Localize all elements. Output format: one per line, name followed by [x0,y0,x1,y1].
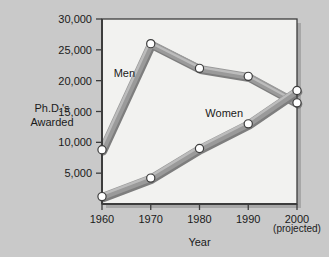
x-tick-label-1960: 1960 [90,213,114,225]
x-tick-label-1980: 1980 [187,213,211,225]
y-tick-label-5000: 5,000 [64,167,92,179]
phd-awarded-line-chart: 5,00010,00015,00020,00025,00030,00019601… [0,0,329,257]
data-point-men-1970 [147,40,155,48]
data-point-men-1990 [244,72,252,80]
y-axis-title-line1: Ph.D.'s [34,102,70,114]
series-annotation-men: Men [114,67,135,79]
y-tick-label-25000: 25,000 [58,44,92,56]
x-axis-title: Year [188,236,211,248]
y-axis-title-line2: Awarded [30,116,73,128]
data-point-women-2000 [293,86,301,94]
projected-note-label: (projected) [273,223,321,234]
data-point-men-1980 [195,64,203,72]
data-point-women-1980 [195,144,203,152]
data-point-women-1990 [244,120,252,128]
series-annotation-women: Women [205,107,243,119]
y-tick-label-30000: 30,000 [58,13,92,25]
y-tick-label-10000: 10,000 [58,136,92,148]
x-tick-label-1970: 1970 [139,213,163,225]
chart-figure: 5,00010,00015,00020,00025,00030,00019601… [0,0,329,257]
data-point-men-1960 [98,146,106,154]
data-point-women-1960 [98,193,106,201]
y-tick-label-20000: 20,000 [58,75,92,87]
data-point-women-1970 [147,174,155,182]
x-tick-label-1990: 1990 [236,213,260,225]
data-point-men-2000 [293,99,301,107]
